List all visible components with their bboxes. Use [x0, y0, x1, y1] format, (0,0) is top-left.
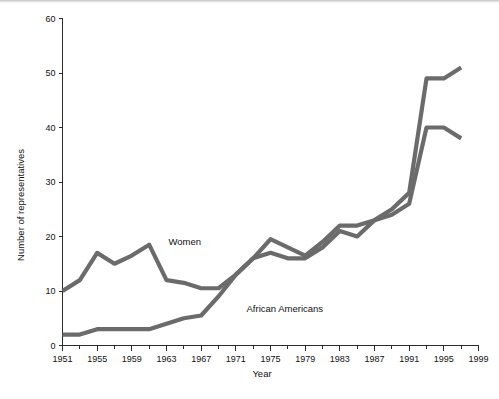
x-tick-label: 1979	[295, 354, 315, 364]
y-tick-label: 50	[45, 68, 55, 78]
x-tick-label: 1955	[87, 354, 107, 364]
line-chart: 0102030405060195119551959196319671971197…	[0, 0, 499, 399]
x-tick-label: 1959	[122, 354, 142, 364]
series-label-women: Women	[169, 236, 202, 247]
chart-figure: 0102030405060195119551959196319671971197…	[0, 0, 499, 399]
x-tick-label: 1995	[434, 354, 454, 364]
x-tick-label: 1987	[364, 354, 384, 364]
series-label-african-americans: African Americans	[247, 303, 324, 314]
y-tick-label: 0	[50, 341, 55, 351]
y-tick-label: 30	[45, 177, 55, 187]
y-axis-title: Number of representatives	[15, 149, 26, 261]
x-tick-label: 1999	[468, 354, 488, 364]
x-tick-label: 1967	[191, 354, 211, 364]
x-axis-title: Year	[252, 368, 271, 379]
x-tick-label: 1991	[399, 354, 419, 364]
y-tick-label: 40	[45, 123, 55, 133]
y-tick-label: 20	[45, 232, 55, 242]
x-tick-label: 1975	[260, 354, 280, 364]
x-tick-label: 1963	[156, 354, 176, 364]
series-group	[63, 68, 462, 335]
x-tick-label: 1951	[52, 354, 72, 364]
x-tick-label: 1983	[330, 354, 350, 364]
y-tick-label: 10	[45, 286, 55, 296]
y-tick-label: 60	[45, 14, 55, 24]
x-tick-label: 1971	[226, 354, 246, 364]
